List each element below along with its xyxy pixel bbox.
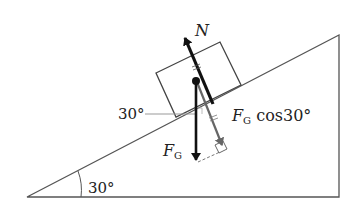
- normal-force-label: N: [194, 21, 210, 40]
- gravity-component-label: FG cos30°: [231, 106, 311, 126]
- center-of-mass-dot: [192, 77, 200, 85]
- incline-angle-label: 30°: [88, 179, 115, 197]
- projection-dashed-line: [198, 152, 220, 162]
- incline-angle-arc: [78, 171, 81, 197]
- gravity-force-label: FG: [162, 141, 182, 161]
- incline-diagram: 30° 30° N FG FG cos30°: [0, 0, 361, 206]
- angle-between-label: 30°: [118, 105, 145, 123]
